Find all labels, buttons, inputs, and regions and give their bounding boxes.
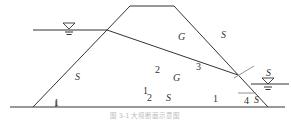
label-downstream-S-upper: S bbox=[221, 29, 226, 40]
label-tailwater-S: S bbox=[266, 67, 271, 78]
seepage-exit-mark bbox=[234, 66, 254, 78]
label-core-G-upper: G bbox=[178, 31, 185, 42]
label-toe-S: S bbox=[254, 94, 259, 105]
number-2-mid: 2 bbox=[155, 64, 160, 75]
number-2-sub: 2 bbox=[147, 92, 152, 103]
number-4: 4 bbox=[244, 95, 249, 106]
number-3: 3 bbox=[196, 61, 201, 72]
number-1-right: 1 bbox=[213, 93, 218, 104]
label-upstream-S: S bbox=[75, 71, 80, 82]
dam-cross-section-diagram: S G S G S S S 1 2 3 1 2 1 4 图 3-1 大坝断面示意… bbox=[0, 0, 291, 120]
number-1-left: 1 bbox=[54, 97, 59, 108]
label-lower-S: S bbox=[166, 92, 171, 103]
figure-caption: 图 3-1 大坝断面示意图 bbox=[110, 111, 181, 120]
upstream-water-level-icon bbox=[63, 23, 75, 35]
label-core-G-lower: G bbox=[173, 72, 180, 83]
phreatic-line bbox=[107, 30, 238, 75]
